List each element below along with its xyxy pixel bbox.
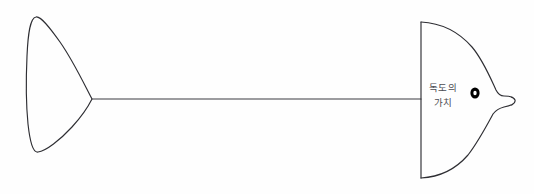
fish-head-label: 독도의 가치 bbox=[421, 80, 465, 110]
tail-fin-shape bbox=[26, 17, 92, 152]
fishbone-diagram: 독도의 가치 bbox=[0, 0, 534, 194]
fish-head-label-line-1: 독도의 bbox=[421, 80, 465, 95]
fish-head-label-line-2: 가치 bbox=[421, 95, 465, 110]
fish-eye-pupil-icon bbox=[473, 91, 476, 95]
